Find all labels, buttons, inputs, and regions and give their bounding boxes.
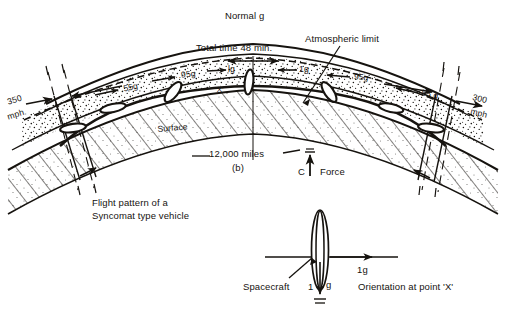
normal-g-label: Normal g [225, 10, 264, 22]
force-label: Force [320, 166, 345, 178]
atmospheric-limit-label: Atmospheric limit [305, 33, 379, 45]
spacecraft-leader [289, 258, 312, 278]
caption-line-1: Flight pattern of a [92, 197, 168, 209]
g-marker-center-left-1g: lg [228, 64, 235, 75]
caption-line-2: Syncomat type vehicle [92, 210, 189, 222]
vertical-g-number: 1 [308, 281, 313, 293]
total-time-label: Total time 48 min. [196, 42, 272, 54]
vertical-g-unit: g [326, 279, 331, 291]
horizontal-g-label: 1g [357, 264, 368, 276]
c-force-arrow [305, 149, 315, 176]
point-x-label: 'X' [215, 85, 224, 95]
force-point-label: C [298, 166, 305, 178]
spacecraft-label: Spacecraft [243, 281, 289, 293]
g-marker-right-95g: .95g [351, 71, 369, 83]
panel-label: (b) [232, 162, 244, 174]
distance-label: 12,000 miles [209, 148, 264, 160]
orientation-caption: Orientation at point 'X' [358, 281, 453, 293]
g-marker-left-95g: .95g [178, 68, 196, 80]
g-marker-center-right-1g: 1g [299, 64, 309, 75]
